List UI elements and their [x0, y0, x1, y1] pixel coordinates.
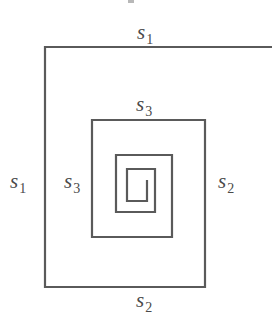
- label-s1-left: s1: [10, 171, 26, 196]
- label-subscript: 1: [19, 181, 26, 196]
- label-subscript: 3: [73, 181, 80, 196]
- label-s1-top: s1: [137, 22, 153, 47]
- label-subscript: 2: [227, 181, 234, 196]
- label-base: s: [137, 20, 145, 44]
- spiral-diagram: s1 s1 s3 s3 s2 s2: [0, 0, 275, 333]
- spiral-svg: [0, 0, 275, 333]
- square-spiral-path: [45, 47, 272, 287]
- label-s2-right: s2: [218, 171, 234, 196]
- label-base: s: [10, 169, 18, 193]
- label-subscript: 3: [145, 104, 152, 119]
- label-base: s: [218, 169, 226, 193]
- label-s3-left: s3: [64, 171, 80, 196]
- label-base: s: [64, 169, 72, 193]
- label-subscript: 1: [146, 32, 153, 47]
- label-s2-bottom: s2: [136, 290, 152, 315]
- label-s3-top: s3: [136, 94, 152, 119]
- label-subscript: 2: [145, 300, 152, 315]
- label-base: s: [136, 288, 144, 312]
- label-base: s: [136, 92, 144, 116]
